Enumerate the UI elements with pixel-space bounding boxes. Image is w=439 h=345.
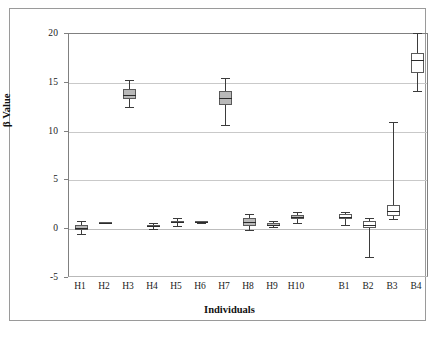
median-line xyxy=(243,222,256,223)
median-line xyxy=(195,222,208,223)
cap-lower xyxy=(149,229,158,230)
whisker-upper xyxy=(129,80,130,89)
plot-area xyxy=(68,33,428,277)
whisker-lower xyxy=(129,99,130,107)
cap-upper xyxy=(269,221,278,222)
x-axis-label: Individuals xyxy=(10,304,439,315)
y-tick-mark-5 xyxy=(64,179,68,180)
y-tick-label-20: 20 xyxy=(10,28,58,38)
y-tick-label-15: 15 xyxy=(10,77,58,87)
figure-container: β Value -505101520 H1H2H3H4H5H6H7H8H9H10… xyxy=(0,0,439,345)
whisker-lower xyxy=(417,73,418,91)
cap-upper xyxy=(77,221,86,222)
x-tick-label-H10: H10 xyxy=(278,281,314,292)
cap-lower xyxy=(341,225,350,226)
median-line xyxy=(75,228,88,229)
gridline-5 xyxy=(69,180,427,181)
cap-upper xyxy=(173,218,182,219)
cap-upper xyxy=(413,33,422,34)
box-iqr xyxy=(411,53,424,73)
whisker-lower xyxy=(225,105,226,125)
cap-lower xyxy=(269,227,278,228)
cap-upper xyxy=(221,78,230,79)
y-tick-mark-0 xyxy=(64,228,68,229)
median-line xyxy=(267,225,280,226)
median-line xyxy=(147,226,160,227)
y-tick-label--5: -5 xyxy=(10,272,58,282)
cap-upper xyxy=(125,80,134,81)
y-tick-mark-15 xyxy=(64,82,68,83)
cap-upper xyxy=(389,122,398,123)
cap-lower xyxy=(221,125,230,126)
median-line xyxy=(171,222,184,223)
cap-upper xyxy=(245,214,254,215)
cap-lower xyxy=(245,230,254,231)
median-line xyxy=(411,60,424,61)
median-line xyxy=(123,95,136,96)
gridline-10 xyxy=(69,132,427,133)
median-line xyxy=(387,211,400,212)
median-line xyxy=(291,217,304,218)
x-tick-label-B4: B4 xyxy=(398,281,434,292)
cap-upper xyxy=(293,212,302,213)
y-axis-label: β Value xyxy=(1,94,12,127)
cap-lower xyxy=(125,107,134,108)
whisker-lower xyxy=(369,228,370,256)
median-line xyxy=(219,98,232,99)
median-line xyxy=(339,217,352,218)
cap-lower xyxy=(389,219,398,220)
y-tick-mark-20 xyxy=(64,33,68,34)
cap-lower xyxy=(413,91,422,92)
y-tick-label-0: 0 xyxy=(10,223,58,233)
cap-lower xyxy=(197,223,206,224)
cap-lower xyxy=(365,257,374,258)
median-line xyxy=(99,223,112,224)
cap-lower xyxy=(77,234,86,235)
cap-lower xyxy=(293,223,302,224)
figure-caption xyxy=(8,330,431,343)
whisker-upper xyxy=(417,33,418,53)
median-line xyxy=(363,225,376,226)
y-tick-label-5: 5 xyxy=(10,174,58,184)
y-tick-mark-10 xyxy=(64,131,68,132)
whisker-upper xyxy=(225,78,226,91)
y-tick-mark--5 xyxy=(64,277,68,278)
gridline-15 xyxy=(69,83,427,84)
cap-upper xyxy=(365,218,374,219)
figure-frame: β Value -505101520 H1H2H3H4H5H6H7H8H9H10… xyxy=(9,8,426,321)
y-tick-label-10: 10 xyxy=(10,126,58,136)
whisker-upper xyxy=(393,122,394,205)
cap-lower xyxy=(173,226,182,227)
